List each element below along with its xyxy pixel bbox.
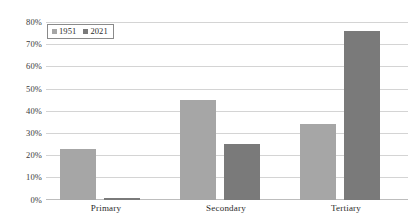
- bar-group-secondary: [166, 22, 286, 200]
- chart-legend: 1951 2021: [47, 24, 114, 39]
- x-axis-tick-secondary: Secondary: [166, 203, 286, 214]
- y-axis-tick-10: 10%: [2, 173, 42, 182]
- x-axis: Primary Secondary Tertiary: [46, 203, 408, 223]
- bar-group-primary: [46, 22, 166, 200]
- square-swatch-icon: [52, 29, 57, 34]
- bar-tertiary-2021[interactable]: [344, 31, 380, 200]
- legend-label-2021: 2021: [90, 27, 107, 36]
- x-axis-tick-primary: Primary: [46, 203, 166, 214]
- legend-entry-2021[interactable]: 2021: [83, 27, 107, 36]
- y-axis-tick-20: 20%: [2, 151, 42, 160]
- bar-primary-2021[interactable]: [104, 198, 140, 200]
- legend-entry-1951[interactable]: 1951: [52, 27, 76, 36]
- bar-tertiary-1951[interactable]: [300, 124, 336, 200]
- y-axis-tick-50: 50%: [2, 85, 42, 94]
- y-axis-tick-80: 80%: [2, 18, 42, 27]
- y-axis-tick-60: 60%: [2, 62, 42, 71]
- y-axis-tick-40: 40%: [2, 107, 42, 116]
- square-swatch-icon: [83, 29, 88, 34]
- y-axis-tick-0: 0%: [2, 196, 42, 205]
- bar-secondary-1951[interactable]: [180, 100, 216, 200]
- bar-primary-1951[interactable]: [60, 149, 96, 200]
- bar-group-tertiary: [286, 22, 406, 200]
- y-axis-tick-70: 70%: [2, 40, 42, 49]
- y-axis: 80% 70% 60% 50% 40% 30% 20% 10% 0%: [0, 0, 42, 223]
- bar-chart: 80% 70% 60% 50% 40% 30% 20% 10% 0%: [0, 0, 418, 223]
- plot-area: [46, 22, 408, 200]
- y-axis-tick-30: 30%: [2, 129, 42, 138]
- legend-label-1951: 1951: [59, 27, 76, 36]
- x-axis-tick-tertiary: Tertiary: [286, 203, 406, 214]
- bar-secondary-2021[interactable]: [224, 144, 260, 200]
